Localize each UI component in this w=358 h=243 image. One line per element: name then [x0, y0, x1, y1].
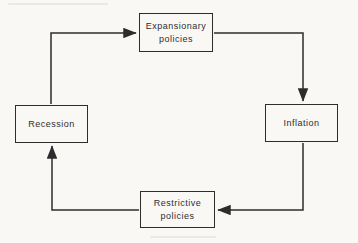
node-expansionary-policies-label: Expansionary policies	[146, 20, 207, 44]
arrow-restrictive-to-recession	[52, 146, 139, 210]
node-expansionary-policies: Expansionary policies	[139, 13, 213, 52]
arrow-recession-to-expansionary	[51, 33, 136, 104]
arrow-expansionary-to-inflation	[214, 33, 303, 101]
node-restrictive-policies-label: Restrictive policies	[154, 197, 202, 221]
scan-artifact-top	[8, 3, 108, 5]
node-inflation: Inflation	[265, 104, 338, 142]
node-restrictive-policies: Restrictive policies	[140, 191, 215, 228]
node-recession-label: Recession	[28, 118, 75, 130]
arrow-inflation-to-restrictive	[218, 143, 303, 210]
node-recession: Recession	[15, 105, 88, 143]
diagram-canvas: Expansionary policies Inflation Restrict…	[0, 0, 358, 243]
node-inflation-label: Inflation	[283, 117, 319, 129]
scan-artifact-bottom	[150, 236, 216, 238]
